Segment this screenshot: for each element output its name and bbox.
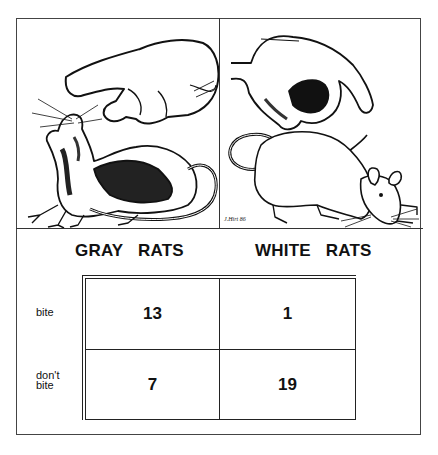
panel-divider (219, 18, 220, 229)
artist-signature: J.Hirt 86 (224, 216, 246, 222)
white-rat-icon (230, 132, 419, 227)
white-rat-drawing (221, 19, 422, 228)
contingency-table: 13 1 7 19 (85, 278, 356, 420)
section-divider (16, 228, 423, 229)
cell-white-dont-bite: 19 (220, 350, 355, 419)
row-label-dont-bite: don't bite (36, 370, 60, 390)
cell-white-bite: 1 (220, 279, 355, 349)
white-rat-illustration (221, 19, 422, 228)
row-label-dont-bite-line2: bite (36, 379, 54, 391)
row-label-bite: bite (36, 307, 54, 317)
cell-gray-bite: 13 (86, 279, 219, 349)
row-label-bite-text: bite (36, 306, 54, 318)
gray-rat-drawing (18, 19, 219, 228)
column-header-gray-rats: GRAY RATS (75, 241, 184, 261)
grasping-hand-icon (231, 36, 373, 129)
cell-gray-dont-bite: 7 (86, 350, 219, 419)
gray-rat-illustration (18, 19, 219, 228)
column-header-white-rats: WHITE RATS (255, 241, 372, 261)
